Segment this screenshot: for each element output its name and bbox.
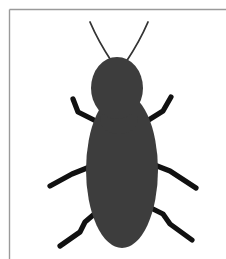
illustration-figure: Black and dark gray silhouette of a beet… — [0, 0, 226, 259]
insect-illustration-canvas — [0, 0, 226, 259]
insect-head — [91, 57, 143, 119]
